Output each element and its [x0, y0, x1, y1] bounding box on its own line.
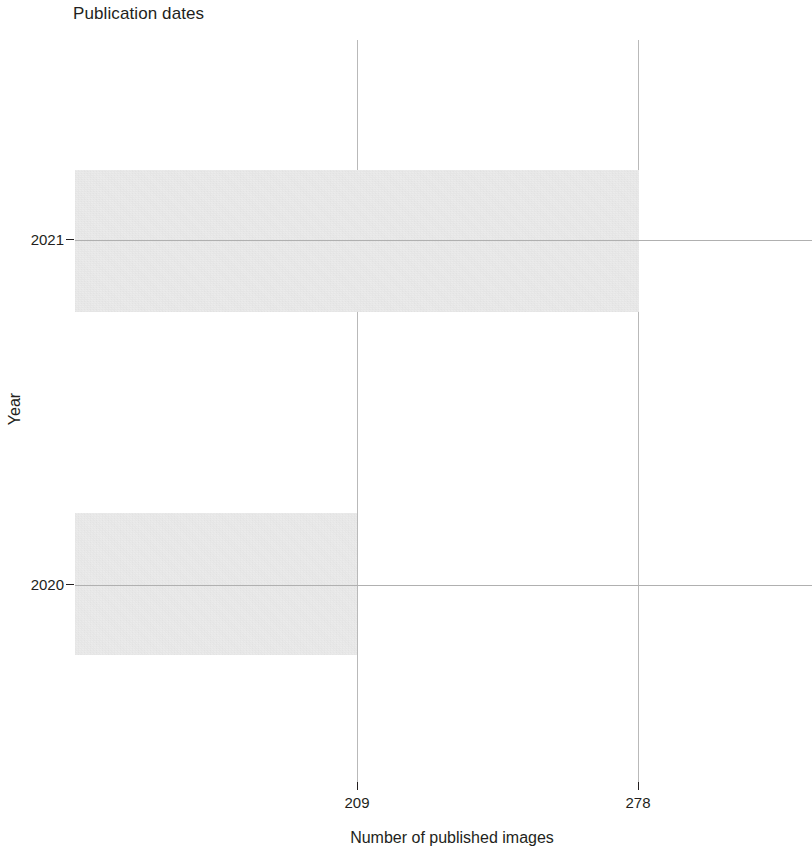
bar-2021[interactable]	[75, 170, 639, 312]
bar-2020[interactable]	[75, 513, 357, 655]
y-tick-label-2021: 2021	[31, 231, 64, 249]
x-tick-278: 278	[598, 782, 678, 812]
y-tick-2020: 2020	[0, 576, 64, 594]
x-axis-title: Number of published images	[152, 828, 752, 848]
y-tick-mark-2021	[66, 239, 74, 240]
gridline-vertical-278	[638, 40, 639, 790]
gridline-horizontal-2021	[75, 240, 812, 241]
x-tick-mark-209	[357, 782, 358, 790]
chart-title: Publication dates	[73, 3, 204, 25]
gridline-horizontal-2020	[75, 585, 812, 586]
y-tick-2021: 2021	[0, 231, 64, 249]
x-tick-209: 209	[317, 782, 397, 812]
gridline-vertical-209	[357, 40, 358, 790]
x-tick-label-209: 209	[317, 794, 397, 812]
y-tick-mark-2020	[66, 584, 74, 585]
bar-chart: Publication dates 2021 2020 209 278 Numb…	[0, 0, 812, 852]
x-tick-mark-278	[638, 782, 639, 790]
y-axis-title: Year	[5, 383, 25, 435]
y-tick-label-2020: 2020	[31, 576, 64, 594]
x-tick-label-278: 278	[598, 794, 678, 812]
